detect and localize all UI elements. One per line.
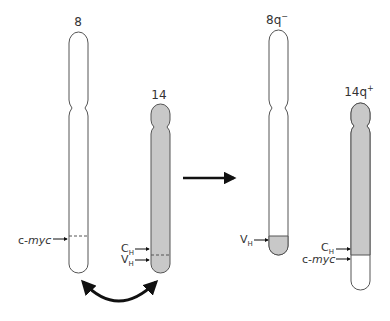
chromosome-14q-plus-label: 14q+: [344, 84, 374, 99]
chromosome-8-label: 8: [74, 15, 82, 29]
c-myc-label-after: c-myc: [302, 253, 335, 266]
c-myc-marker: c-myc: [18, 234, 67, 247]
chromosome-14: 14 CH VH: [121, 88, 170, 273]
chromosome-8q-minus: 8q− VH: [240, 12, 288, 255]
chromosome-8q-minus-body: [269, 30, 288, 255]
vh-marker-after: VH: [240, 233, 268, 248]
chromosome-8q-minus-label: 8q−: [266, 12, 288, 27]
c-myc-label: c-myc: [18, 234, 51, 247]
chromosome-14q-plus: 14q+ CH c-myc: [302, 84, 374, 290]
chromosome-8q-minus-translocated-segment: [269, 236, 288, 255]
vh-marker: VH: [121, 253, 149, 268]
chromosome-14-label: 14: [151, 88, 166, 102]
chromosome-8: 8 c-myc: [18, 15, 88, 273]
chromosome-8-body: [69, 32, 88, 273]
chromosome-14-body: [151, 104, 170, 273]
c-myc-marker-after: c-myc: [302, 253, 350, 266]
vh-label-after: VH: [240, 233, 253, 248]
chromosome-14q-plus-original-segment: [351, 103, 370, 255]
exchange-double-arrow-icon: [83, 282, 156, 301]
translocation-diagram: 8 c-myc 14 CH VH 8q− VH: [0, 0, 390, 321]
